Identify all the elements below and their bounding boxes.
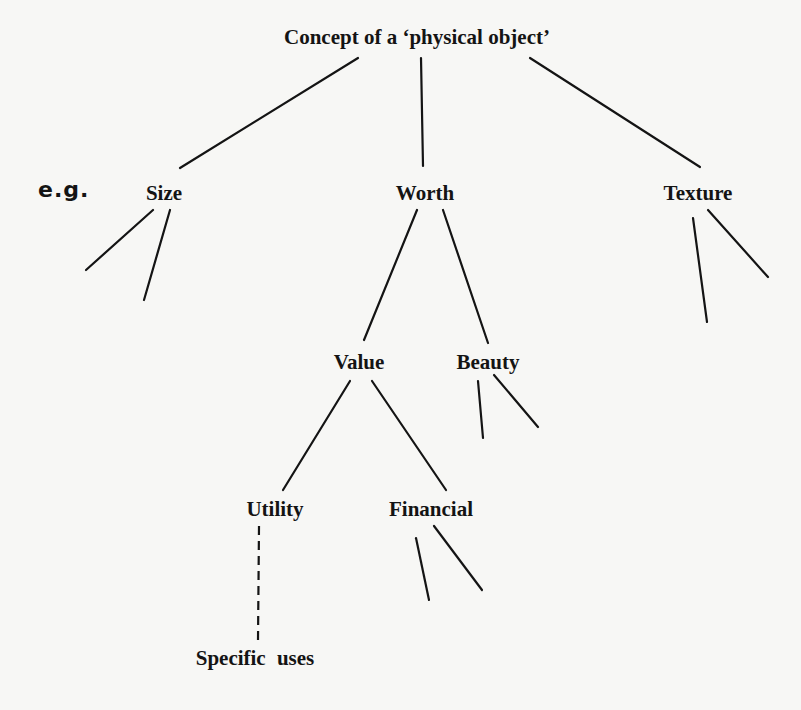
edge-worth-beauty [443,210,488,343]
edge-value-financial [372,381,446,490]
edge-root-texture [530,58,700,167]
edge-texture-branch-left [693,218,707,322]
edge-utility-specific-uses [258,526,259,640]
edge-size-branch-left [86,210,153,270]
node-worth: Worth [396,183,454,204]
concept-tree-diagram: Concept of a ‘physical object’ e.g. Size… [0,0,801,710]
edge-root-size [180,58,358,168]
edge-root-worth [421,58,423,166]
eg-annotation: e.g. [38,179,89,201]
edge-financial-branch-left [416,538,429,600]
node-utility: Utility [246,499,303,520]
node-root-concept: Concept of a ‘physical object’ [284,27,550,48]
edge-beauty-branch-right [494,375,538,427]
edge-worth-value [364,210,417,340]
edge-texture-branch-right [708,210,768,277]
edge-beauty-branch-left [478,381,483,438]
node-beauty: Beauty [457,352,520,373]
edge-value-utility [283,381,350,490]
node-specific-uses: Specific uses [196,648,315,669]
edge-financial-branch-right [434,526,482,590]
node-financial: Financial [389,499,473,520]
node-size: Size [146,183,182,204]
tree-edges [0,0,801,710]
edge-size-branch-right [144,210,170,300]
node-texture: Texture [664,183,733,204]
node-value: Value [334,352,385,373]
